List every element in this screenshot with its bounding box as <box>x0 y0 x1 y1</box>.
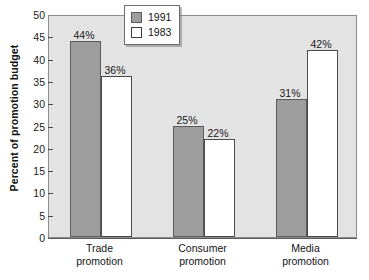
x-axis-group-label-line: Trade <box>48 242 151 255</box>
x-axis-group-label-line: promotion <box>254 255 357 268</box>
bar-value-label: 22% <box>197 127 240 139</box>
bar-chart-figure: Percent of promotion budget 051015202530… <box>0 0 369 280</box>
bar-value-label: 42% <box>300 38 343 50</box>
y-tick-mark <box>48 171 53 172</box>
y-axis-title: Percent of promotion budget <box>8 8 20 228</box>
y-tick-label: 5 <box>23 211 45 221</box>
x-axis-group-label-line: promotion <box>48 255 151 268</box>
legend-label-1983: 1983 <box>148 27 171 38</box>
y-tick-mark <box>48 104 53 105</box>
y-tick-label: 30 <box>23 99 45 109</box>
bar-value-label: 36% <box>94 64 137 76</box>
y-tick-label: 20 <box>23 144 45 154</box>
y-tick-label: 45 <box>23 32 45 42</box>
y-tick-mark <box>48 82 53 83</box>
x-axis-group-label-line: Consumer <box>151 242 254 255</box>
y-tick-mark <box>48 60 53 61</box>
y-axis-tick-labels: 05101520253035404550 <box>20 0 45 280</box>
y-tick-mark <box>48 193 53 194</box>
y-tick-label: 40 <box>23 55 45 65</box>
y-tick-mark <box>48 149 53 150</box>
x-axis-group-label: Tradepromotion <box>48 242 151 268</box>
y-tick-label: 0 <box>23 233 45 243</box>
x-axis-group-label-line: Media <box>254 242 357 255</box>
y-tick-label: 10 <box>23 188 45 198</box>
y-tick-label: 15 <box>23 166 45 176</box>
x-axis-line <box>48 238 357 239</box>
bar-1991-consumer <box>173 126 204 238</box>
bar-value-label: 31% <box>269 87 312 99</box>
x-axis-group-label: Mediapromotion <box>254 242 357 268</box>
legend-label-1991: 1991 <box>148 12 171 23</box>
bar-value-label: 25% <box>166 114 209 126</box>
y-tick-mark <box>48 127 53 128</box>
legend-swatch-1991-icon <box>131 12 142 23</box>
bar-value-label: 44% <box>63 29 106 41</box>
bar-1991-media <box>276 99 307 237</box>
y-tick-label: 25 <box>23 122 45 132</box>
y-tick-label: 50 <box>23 10 45 20</box>
bar-1983-consumer <box>204 139 235 237</box>
legend-entry-1991: 1991 <box>131 10 171 25</box>
legend-entry-1983: 1983 <box>131 25 171 40</box>
bar-1983-media <box>307 50 338 237</box>
legend: 1991 1983 <box>124 5 180 45</box>
y-tick-label: 35 <box>23 77 45 87</box>
y-tick-mark <box>48 216 53 217</box>
legend-swatch-1983-icon <box>131 27 142 38</box>
y-tick-mark <box>48 37 53 38</box>
x-axis-group-label: Consumerpromotion <box>151 242 254 268</box>
bar-1983-trade <box>101 76 132 237</box>
x-axis-group-label-line: promotion <box>151 255 254 268</box>
